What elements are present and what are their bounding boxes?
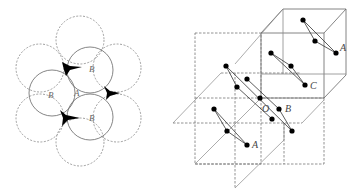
atom [269,116,274,121]
atom [302,82,307,87]
label-b-top: B [89,64,95,74]
atom [288,63,293,68]
atom [234,84,239,89]
figure: B B B A [0,0,356,196]
label-c: C [310,80,317,91]
circle-top-right [93,44,141,92]
atom [333,50,338,55]
inner-solid-circles [29,47,113,140]
atom [223,63,228,68]
slanted-lines [173,9,324,188]
right-panel-unit-cells: A C O B A [173,9,347,188]
left-panel-circle-packing: B B B A [16,16,141,166]
label-center: A [73,88,80,98]
atom [300,17,305,22]
atom-b [276,106,281,111]
atom [224,128,229,133]
label-o: O [262,103,269,114]
diagram-canvas: B B B A [0,0,356,196]
atom [211,106,216,111]
circle-top [56,16,104,64]
circle-bottom-left [16,94,64,142]
left-labels: B B B A [48,64,95,123]
label-a-top: A [339,42,347,53]
atom [244,76,249,81]
circle-top-left [16,44,64,92]
label-b-left: B [48,90,54,100]
void-right [104,86,120,100]
label-a-bottom: A [251,139,259,150]
label-b: B [285,103,291,114]
circle-bottom-right [93,94,141,142]
atom [289,128,294,133]
atom [312,38,317,43]
atom [268,50,273,55]
atom-o [257,95,262,100]
atom [244,142,249,147]
label-b-bottom: B [89,113,95,123]
